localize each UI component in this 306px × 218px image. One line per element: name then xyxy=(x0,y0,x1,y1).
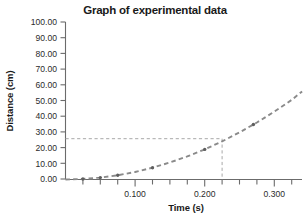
data-point xyxy=(203,148,206,151)
y-tick-label-0: 0.00 xyxy=(40,174,57,184)
y-tick-label-50: 50.00 xyxy=(35,96,57,106)
y-tick-label-40: 40.00 xyxy=(35,111,57,121)
y-tick-label-90: 90.00 xyxy=(35,33,57,43)
y-tick-label-100: 100.00 xyxy=(31,17,58,27)
y-tick-label-10: 10.00 xyxy=(35,159,57,169)
chart-title: Graph of experimental data xyxy=(83,4,228,16)
data-point xyxy=(99,176,102,179)
data-point xyxy=(252,123,255,126)
data-point xyxy=(151,166,154,169)
y-tick-label-60: 60.00 xyxy=(35,80,57,90)
x-axis-title: Time (s) xyxy=(168,202,203,213)
y-axis-title: Distance (cm) xyxy=(4,71,15,132)
x-tick-label-0.300: 0.300 xyxy=(264,189,286,199)
y-tick-label-20: 20.00 xyxy=(35,143,57,153)
experimental-data-chart: Graph of experimental data 100.00 90.00 xyxy=(0,0,306,218)
y-tick-label-30: 30.00 xyxy=(35,127,57,137)
y-tick-label-80: 80.00 xyxy=(35,49,57,59)
chart-figure: Graph of experimental data 100.00 90.00 xyxy=(0,0,306,218)
x-tick-label-0.100: 0.100 xyxy=(124,189,146,199)
y-tick-label-70: 70.00 xyxy=(35,64,57,74)
x-tick-label-0.200: 0.200 xyxy=(194,189,216,199)
data-point xyxy=(116,174,119,177)
data-point xyxy=(81,177,84,180)
